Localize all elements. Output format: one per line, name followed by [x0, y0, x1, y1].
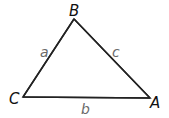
side-b	[23, 97, 150, 98]
side-label-b: b	[81, 101, 90, 117]
vertex-label-c: C	[9, 90, 20, 108]
vertex-label-b: B	[69, 2, 79, 20]
triangle-diagram: B C A a b c	[0, 0, 169, 118]
vertex-label-a: A	[149, 94, 160, 112]
side-label-a: a	[40, 44, 49, 60]
side-label-c: c	[112, 44, 120, 60]
